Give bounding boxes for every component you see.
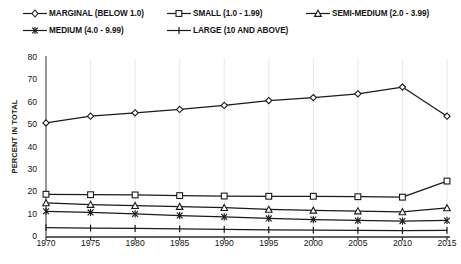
x-tick-label: 1980 [115,238,155,248]
legend-label-small: SMALL (1.0 - 1.99) [193,9,262,18]
y-tick-label: 10 [13,209,37,219]
plus-marker-icon [166,25,192,36]
diamond-marker-icon [22,8,48,19]
legend-label-marginal: MARGINAL (BELOW 1.0) [49,9,144,18]
x-tick-label: 2000 [293,238,333,248]
triangle-marker-icon [305,8,331,19]
chart-legend: MARGINAL (BELOW 1.0) SMALL (1.0 - 1.99) … [0,6,455,46]
asterisk-marker-icon [22,25,48,36]
series-line-3 [46,211,447,221]
x-tick-label: 1995 [249,238,289,248]
y-tick-label: 40 [13,142,37,152]
data-point-marker [88,192,94,198]
data-point-marker [310,95,316,101]
x-tick-label: 1970 [26,238,66,248]
data-point-marker [132,192,138,198]
data-point-marker [266,97,272,103]
legend-item-small[interactable]: SMALL (1.0 - 1.99) [166,8,262,19]
legend-item-semi-medium[interactable]: SEMI-MEDIUM (2.0 - 3.99) [305,8,429,19]
data-point-marker [87,113,93,119]
data-point-marker [43,120,49,126]
data-point-marker [266,193,272,199]
series-line-2 [46,203,447,212]
series-line-0 [46,87,447,123]
x-tick-label: 1985 [160,238,200,248]
data-point-marker [444,113,450,119]
data-point-marker [399,84,405,90]
data-point-marker [177,106,183,112]
y-tick-label: 50 [13,119,37,129]
legend-item-medium[interactable]: MEDIUM (4.0 - 9.99) [22,25,124,36]
data-point-marker [43,191,49,197]
x-tick-label: 2005 [338,238,378,248]
y-tick-label: 30 [13,164,37,174]
y-tick-label: 80 [13,52,37,62]
x-tick-label: 2010 [382,238,422,248]
data-point-marker [221,102,227,108]
legend-label-large: LARGE (10 AND ABOVE) [193,26,288,35]
legend-item-marginal[interactable]: MARGINAL (BELOW 1.0) [22,8,144,19]
data-point-marker [177,193,183,199]
legend-label-semi-medium: SEMI-MEDIUM (2.0 - 3.99) [332,9,429,18]
data-point-marker [221,193,227,199]
x-tick-label: 1990 [204,238,244,248]
y-tick-label: 70 [13,74,37,84]
series-line-4 [46,228,447,231]
plot-canvas [0,46,455,264]
data-point-marker [355,194,361,200]
y-tick-label: 20 [13,186,37,196]
x-tick-label: 1975 [71,238,111,248]
square-marker-icon [166,8,192,19]
data-point-marker [132,110,138,116]
legend-label-medium: MEDIUM (4.0 - 9.99) [49,26,124,35]
series-line-1 [46,181,447,197]
data-point-marker [310,193,316,199]
data-point-marker [400,194,406,200]
legend-item-large[interactable]: LARGE (10 AND ABOVE) [166,25,288,36]
data-point-marker [355,91,361,97]
data-point-marker [444,178,450,184]
x-tick-label: 2015 [427,238,461,248]
plot-area: PERCENT IN TOTAL 01020304050607080 19701… [0,46,455,264]
y-tick-label: 60 [13,97,37,107]
